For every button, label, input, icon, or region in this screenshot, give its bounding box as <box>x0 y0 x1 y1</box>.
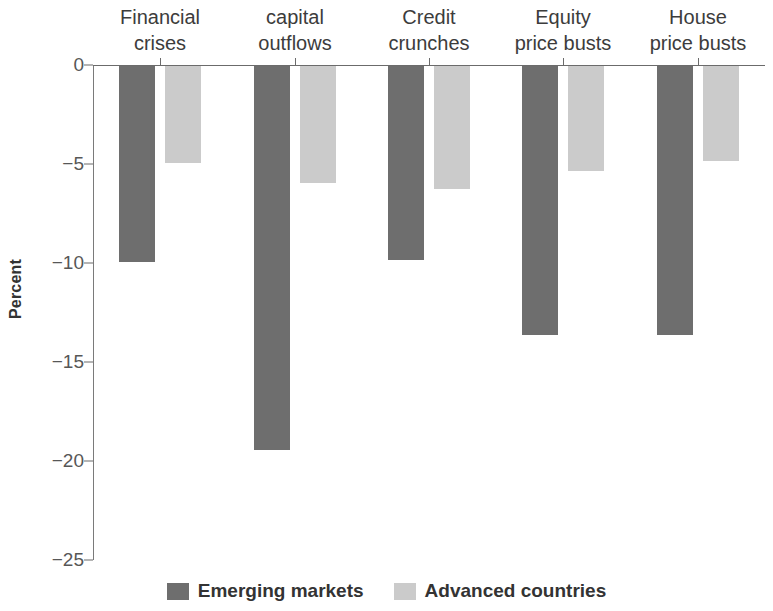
category-label-line: crises <box>85 30 235 56</box>
category-label-line: Equity <box>488 4 638 30</box>
legend-label-advanced: Advanced countries <box>425 580 607 602</box>
y-axis-line <box>93 65 94 560</box>
bar-4-0 <box>657 66 693 335</box>
y-axis-title: Percent <box>7 249 25 329</box>
category-label-2: Creditcrunches <box>354 4 504 56</box>
category-label-line: crunches <box>354 30 504 56</box>
x-tick-mark-0 <box>160 58 161 66</box>
y-tick-label: −10 <box>32 252 84 274</box>
x-tick-mark-2 <box>429 58 430 66</box>
category-label-line: price busts <box>488 30 638 56</box>
bar-4-1 <box>703 66 739 161</box>
bar-3-0 <box>522 66 558 335</box>
x-tick-mark-1 <box>295 58 296 66</box>
legend-item-advanced-countries: Advanced countries <box>394 580 607 602</box>
legend-swatch-icon-emerging <box>167 583 189 600</box>
y-tick-mark <box>84 461 93 462</box>
bar-0-1 <box>165 66 201 163</box>
category-label-3: Equityprice busts <box>488 4 638 56</box>
y-tick-label: 0 <box>32 54 84 76</box>
legend-swatch-icon-advanced <box>394 583 416 600</box>
x-tick-mark-3 <box>563 58 564 66</box>
category-label-line: price busts <box>623 30 773 56</box>
y-tick-label: −20 <box>32 450 84 472</box>
bar-0-0 <box>119 66 155 262</box>
category-label-1: capitaloutflows <box>220 4 370 56</box>
bar-chart: Percent 0−5−10−15−20−25 Financialcrisesc… <box>0 0 773 611</box>
legend-label-emerging: Emerging markets <box>198 580 364 602</box>
category-label-line: Financial <box>85 4 235 30</box>
y-tick-label: −25 <box>32 549 84 571</box>
y-tick-mark <box>84 362 93 363</box>
y-tick-mark <box>84 164 93 165</box>
category-label-4: Houseprice busts <box>623 4 773 56</box>
category-label-line: outflows <box>220 30 370 56</box>
category-label-0: Financialcrises <box>85 4 235 56</box>
y-tick-label: −5 <box>32 153 84 175</box>
category-label-line: capital <box>220 4 370 30</box>
bar-2-1 <box>434 66 470 189</box>
bar-1-1 <box>300 66 336 183</box>
chart-legend: Emerging markets Advanced countries <box>0 580 773 602</box>
bar-3-1 <box>568 66 604 171</box>
bar-2-0 <box>388 66 424 260</box>
y-tick-mark <box>84 65 93 66</box>
y-tick-mark <box>84 263 93 264</box>
category-label-line: Credit <box>354 4 504 30</box>
x-tick-mark-4 <box>698 58 699 66</box>
bar-1-0 <box>254 66 290 450</box>
category-label-line: House <box>623 4 773 30</box>
legend-item-emerging-markets: Emerging markets <box>167 580 364 602</box>
y-tick-label: −15 <box>32 351 84 373</box>
y-tick-mark <box>84 560 93 561</box>
